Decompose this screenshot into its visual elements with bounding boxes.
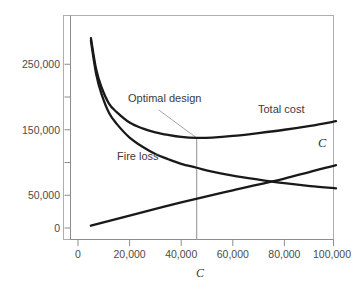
y-tick-label-50000: 50,000 [28, 189, 60, 201]
x-tick-label-40000: 40,000 [165, 248, 197, 260]
x-axis-ticks [78, 240, 334, 247]
x-tick-label-20000: 20,000 [114, 248, 146, 260]
series-curve-c [91, 165, 336, 226]
series-curve-total-cost [91, 38, 336, 138]
x-tick-label-60000: 60,000 [217, 248, 249, 260]
annotation-optimal-design: Optimal design [128, 92, 201, 104]
y-tick-label-250000: 250,000 [22, 58, 60, 70]
series-label-c: C [318, 136, 327, 150]
x-tick-label-80000: 80,000 [268, 248, 300, 260]
y-tick-label-0: 0 [54, 222, 60, 234]
series-label-fire-loss: Fire loss [117, 150, 159, 162]
x-axis-title: C [196, 266, 205, 280]
y-tick-label-150000: 150,000 [22, 124, 60, 136]
x-tick-label-100000: 100,000 [313, 248, 351, 260]
figure-container: 0 50,000 150,000 250,000 0 20,000 40,000… [0, 0, 356, 291]
series-label-total-cost: Total cost [258, 103, 304, 115]
x-tick-label-0: 0 [75, 248, 81, 260]
chart-svg: 0 50,000 150,000 250,000 0 20,000 40,000… [0, 0, 356, 291]
y-axis-ticks [65, 64, 71, 228]
